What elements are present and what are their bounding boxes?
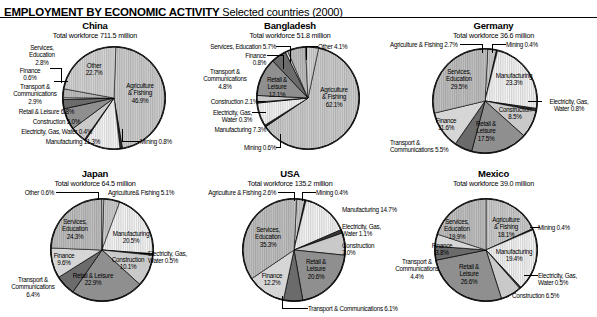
leader-bangladesh-services-v xyxy=(290,46,291,63)
label-bangladesh-finance: Finance 0.8% xyxy=(202,52,266,67)
label-japan-agriculture: Agriculture& Fishing 5.1% xyxy=(108,189,194,196)
leader-bangladesh-other-v xyxy=(306,46,307,60)
label-bangladesh-services: Services, Education 5.7% xyxy=(190,43,276,50)
chart-panel-bangladesh: Bangladesh Total workforce 51.8 million … xyxy=(190,20,390,168)
inlabel-bangladesh-retail: Retail & Leisure 12.1% xyxy=(256,76,298,98)
inlabel-usa-finance: Finance 12.2% xyxy=(252,272,292,287)
chart-title-china: China xyxy=(0,20,190,31)
leader-bangladesh-finance-v xyxy=(283,55,284,69)
chart-title-bangladesh: Bangladesh xyxy=(190,20,390,31)
leader-germany-mining xyxy=(492,44,506,45)
leader-bangladesh-construction xyxy=(258,101,266,102)
leader-germany-electricity xyxy=(528,101,542,102)
label-usa-mining: Mining 0.4% xyxy=(316,189,366,196)
inlabel-germany-finance: Finance 11.6% xyxy=(426,117,466,132)
leader-japan-other xyxy=(56,192,98,193)
label-bangladesh-transport: Transport & Communications 4.8% xyxy=(192,68,258,90)
inlabel-japan-retail: Retail & Leisure 22.9% xyxy=(62,272,124,287)
chart-title-mexico: Mexico xyxy=(390,168,597,179)
leader-bangladesh-finance xyxy=(267,55,283,56)
leader-bangladesh-mining xyxy=(276,147,281,148)
label-germany-mining: Mining 0.4% xyxy=(506,41,560,48)
label-bangladesh-mining: Mining 0.6% xyxy=(210,144,276,151)
inlabel-japan-manufacturing: Manufacturing 20.5% xyxy=(104,230,158,245)
chart-panel-japan: Japan Total workforce 64.5 million Other… xyxy=(0,168,190,317)
inlabel-china-other: Other 22.7% xyxy=(74,62,114,77)
leader-usa-mining xyxy=(302,192,316,193)
leader-germany-mining-v xyxy=(492,44,493,53)
chart-panel-germany: Germany Total workforce 36.6 million Agr… xyxy=(390,20,597,168)
leader-usa-agriculture-v xyxy=(294,192,295,201)
leader-japan-other-v xyxy=(98,192,99,200)
label-china-manufacturing: Manufacturing 11.3% xyxy=(0,138,100,145)
chart-subtitle-bangladesh: Total workforce 51.8 million xyxy=(190,31,390,40)
inlabel-mexico-retail: Retail & Leisure 26.6% xyxy=(448,263,490,285)
label-china-transport: Transport & Communications 2.9% xyxy=(2,83,68,105)
label-bangladesh-manufacturing: Manufacturing 7.3% xyxy=(190,126,266,133)
leader-mexico-mining xyxy=(530,227,540,228)
label-china-electricity: Electricity, Gas, Water 0.4% xyxy=(0,128,92,135)
leader-japan-electricity xyxy=(140,253,150,254)
leader-usa-transport xyxy=(282,308,308,309)
inlabel-usa-retail: Retail & Leisure 20.6% xyxy=(296,258,336,280)
label-bangladesh-other: Other 4.1% xyxy=(318,43,366,50)
label-usa-agriculture: Agriculture & Fishing 2.6% xyxy=(190,189,276,196)
leader-bangladesh-services xyxy=(276,46,290,47)
inlabel-bangladesh-agriculture: Agriculture & Fishing 62.1% xyxy=(306,86,362,108)
label-china-services: Services, Education 2.8% xyxy=(14,44,70,66)
inlabel-mexico-services: Services, Education 19.9% xyxy=(434,218,480,240)
label-bangladesh-construction: Construction 2.1% xyxy=(190,98,258,105)
inlabel-germany-construction: Construction 8.5% xyxy=(490,106,540,121)
inlabel-mexico-agriculture: Agriculture & Fishing 18.1% xyxy=(482,216,530,238)
leader-bangladesh-electricity xyxy=(252,112,266,113)
leader-bangladesh-mining-v xyxy=(280,134,281,147)
label-china-construction: Construction 5.0% xyxy=(0,118,80,125)
inlabel-usa-services: Services, Education 35.3% xyxy=(244,226,292,248)
leader-germany-agriculture-v xyxy=(482,44,483,53)
leader-usa-mining-v xyxy=(302,192,303,201)
chart-subtitle-mexico: Total workforce 39.0 million xyxy=(390,179,597,188)
inlabel-china-agriculture: Agriculture & Fishing 46.9% xyxy=(112,82,168,104)
leader-china-mining xyxy=(122,141,140,142)
label-mexico-electricity: Electricity, Gas, Water 0.5% xyxy=(538,272,594,287)
label-china-retail: Retail & Leisure 6.8% xyxy=(0,108,74,115)
chart-subtitle-japan: Total workforce 64.5 million xyxy=(0,179,190,188)
inlabel-mexico-finance: Finance 3.8% xyxy=(422,242,462,257)
label-japan-other: Other 0.6% xyxy=(0,189,54,196)
leader-bangladesh-other xyxy=(306,46,318,47)
label-mexico-mining: Mining 0.4% xyxy=(538,224,590,231)
inlabel-germany-services: Services, Education 29.5% xyxy=(436,68,482,90)
inlabel-japan-finance: Finance 9.6% xyxy=(44,252,84,267)
label-china-finance: Finance 0.6% xyxy=(6,67,54,82)
label-germany-electricity: Electricity, Gas, Water 0.8% xyxy=(540,98,597,113)
leader-china-finance xyxy=(54,81,68,82)
chart-subtitle-china: Total workforce 711.5 million xyxy=(0,31,190,40)
leader-china-mining-v xyxy=(122,129,123,141)
chart-subtitle-germany: Total workforce 36.6 million xyxy=(390,31,597,40)
chart-title-usa: USA xyxy=(190,168,390,179)
chart-subtitle-usa: Total workforce 135.2 million xyxy=(190,179,390,188)
chart-panel-mexico: Mexico Total workforce 39.0 million Mini… xyxy=(390,168,597,317)
label-japan-transport: Transport & Communications 6.4% xyxy=(0,276,66,298)
leader-mexico-electricity xyxy=(524,275,538,276)
chart-title-japan: Japan xyxy=(0,168,190,179)
chart-title-germany: Germany xyxy=(390,20,597,31)
label-bangladesh-electricity: Electricity, Gas, Water 0.3% xyxy=(190,109,252,124)
leader-usa-transport-v xyxy=(282,296,283,308)
leader-germany-agriculture xyxy=(460,44,482,45)
header-divider xyxy=(0,17,597,18)
leader-usa-agriculture xyxy=(278,192,294,193)
chart-panel-usa: USA Total workforce 135.2 million Agricu… xyxy=(190,168,390,317)
inlabel-mexico-manufacturing: Manufacturing 19.4% xyxy=(486,248,542,263)
label-mexico-construction: Construction 6.5% xyxy=(512,292,588,299)
chart-panel-china: China Total workforce 711.5 million Serv… xyxy=(0,20,190,168)
inlabel-germany-retail: Retail & Leisure 17.5% xyxy=(466,120,506,142)
inlabel-japan-services: Services, Education 24.3% xyxy=(52,218,98,240)
inlabel-germany-manufacturing: Manufacturing 23.3% xyxy=(486,72,542,87)
inlabel-japan-construction: Construction 10.1% xyxy=(104,256,152,271)
chart-page: EMPLOYMENT BY ECONOMIC ACTIVITY Selected… xyxy=(0,0,597,317)
label-mexico-transport: Transport & Communications 4.4% xyxy=(390,258,444,280)
label-china-mining: Mining 0.8% xyxy=(140,138,196,145)
